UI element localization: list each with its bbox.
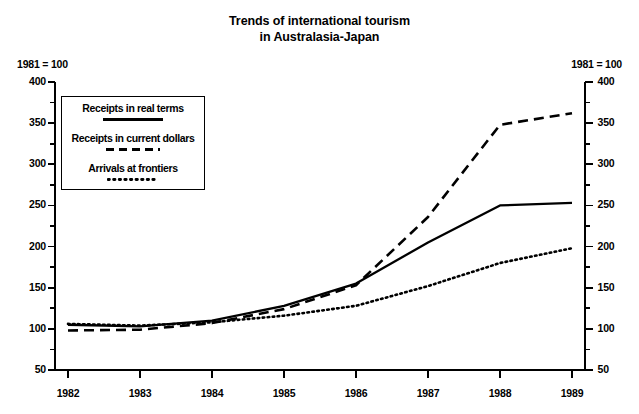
- chart-page: Trends of international tourism in Austr…: [0, 0, 639, 414]
- legend-item-label: Receipts in real terms: [62, 102, 204, 114]
- legend-item-arrivals: Arrivals at frontiers: [62, 162, 204, 181]
- y-axis-tick-label-left: 50: [8, 363, 46, 375]
- y-axis-tick-label-right: 400: [598, 75, 638, 87]
- legend-swatch-dashed-icon: [62, 147, 204, 151]
- y-axis-tick-label-right: 200: [598, 240, 638, 252]
- x-axis-tick-label: 1989: [547, 387, 597, 399]
- y-axis-tick-label-right: 150: [598, 281, 638, 293]
- y-axis-tick-label-left: 250: [8, 198, 46, 210]
- y-axis-tick-label-left: 350: [8, 116, 46, 128]
- legend-item-label: Receipts in current dollars: [62, 132, 204, 144]
- y-axis-tick-label-right: 50: [598, 363, 638, 375]
- x-axis-tick-label: 1988: [475, 387, 525, 399]
- y-axis-tick-label-left: 100: [8, 322, 46, 334]
- x-axis-tick-label: 1985: [259, 387, 309, 399]
- y-axis-tick-label-right: 100: [598, 322, 638, 334]
- legend-item-receipts_real: Receipts in real terms: [62, 102, 204, 121]
- x-axis-tick-label: 1984: [187, 387, 237, 399]
- y-axis-tick-label-left: 300: [8, 157, 46, 169]
- legend-swatch-dotted-icon: [62, 177, 204, 181]
- y-axis-tick-label-left: 200: [8, 240, 46, 252]
- x-axis-tick-label: 1987: [403, 387, 453, 399]
- legend-item-receipts_current: Receipts in current dollars: [62, 132, 204, 151]
- legend-item-label: Arrivals at frontiers: [62, 162, 204, 174]
- y-axis-tick-label-left: 400: [8, 75, 46, 87]
- chart-legend: Receipts in real termsReceipts in curren…: [61, 96, 205, 190]
- y-axis-tick-label-right: 300: [598, 157, 638, 169]
- chart-plot-area: [0, 0, 639, 414]
- y-axis-tick-label-right: 350: [598, 116, 638, 128]
- x-axis-tick-label: 1982: [43, 387, 93, 399]
- x-axis-tick-label: 1983: [115, 387, 165, 399]
- y-axis-tick-label-left: 150: [8, 281, 46, 293]
- y-axis-tick-label-right: 250: [598, 198, 638, 210]
- x-axis-tick-label: 1986: [331, 387, 381, 399]
- legend-swatch-solid-icon: [62, 117, 204, 121]
- chart-line-dotted: [68, 248, 572, 325]
